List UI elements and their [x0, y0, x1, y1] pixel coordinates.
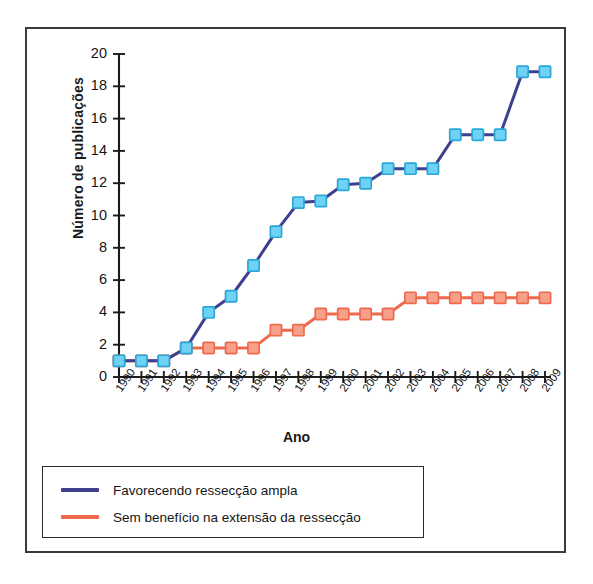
y-tick-label: 4	[81, 303, 107, 319]
y-tick-label: 6	[81, 271, 107, 287]
legend-swatch-red	[61, 515, 99, 520]
y-axis-title: Número de publicações	[70, 48, 86, 268]
figure-container: 02468101214161820 1990199119921993199419…	[0, 0, 593, 584]
legend-label-sem-beneficio: Sem benefício na extensão da ressecção	[113, 510, 361, 525]
x-axis-title: Ano	[0, 429, 593, 445]
legend-item-favorecendo: Favorecendo ressecção ampla	[61, 479, 298, 501]
y-tick-label: 0	[81, 368, 107, 384]
legend-label-favorecendo: Favorecendo ressecção ampla	[113, 483, 298, 498]
y-tick-label: 2	[81, 336, 107, 352]
legend-swatch-blue	[61, 488, 99, 493]
legend-item-sem-beneficio: Sem benefício na extensão da ressecção	[61, 506, 361, 528]
chart-legend: Favorecendo ressecção ampla Sem benefíci…	[42, 466, 424, 538]
